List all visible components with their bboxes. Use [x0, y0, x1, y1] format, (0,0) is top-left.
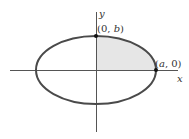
y-axis-label: y [98, 8, 105, 19]
x-axis-label: x [177, 73, 183, 84]
point-0-b [94, 34, 98, 38]
point-label-a-0: (a, 0) [155, 58, 182, 69]
ellipse-diagram: y x (0, b) (a, 0) [0, 0, 189, 139]
point-label-0-b: (0, b) [97, 23, 124, 34]
